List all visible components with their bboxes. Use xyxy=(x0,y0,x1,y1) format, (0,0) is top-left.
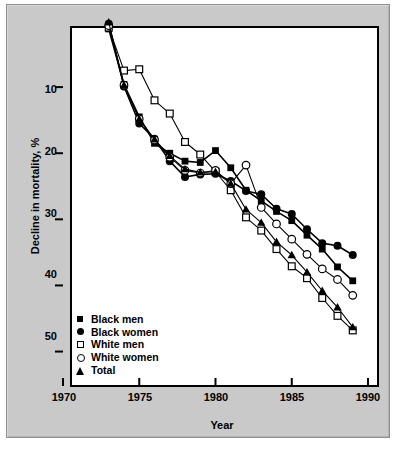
axis-ticks xyxy=(55,87,368,386)
series-white-women xyxy=(105,22,357,299)
series-total xyxy=(105,18,357,330)
chart-canvas xyxy=(0,0,398,450)
figure-page: Decline in mortality, % Year 10 20 30 40… xyxy=(0,0,398,450)
series-black-men xyxy=(105,26,356,285)
data-series-group xyxy=(105,18,357,334)
series-black-women xyxy=(105,20,357,259)
